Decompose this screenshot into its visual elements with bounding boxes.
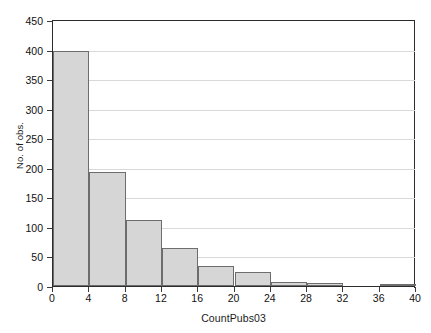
x-axis-tick-label: 8 [105,293,145,305]
y-axis-tick-label: 150 [9,193,43,204]
x-axis-tick-label: 40 [395,293,431,305]
y-axis-tick-label: 0 [9,282,43,293]
gridline [53,51,415,52]
plot-area [52,21,415,287]
histogram-bar [307,283,343,286]
gridline [53,139,415,140]
histogram-bar [162,248,198,286]
histogram-bar [271,282,307,286]
x-axis-tick-label: 0 [32,293,72,305]
x-axis-tick-label: 12 [141,293,181,305]
x-axis-tick-label: 4 [68,293,108,305]
x-axis-tick-label: 24 [250,293,290,305]
x-axis-tick-labels: 0481216202428323640 [52,293,415,309]
histogram-bar [198,266,234,286]
histogram-bar [53,51,89,286]
histogram-chart: No. of obs. 050100150200250300350400450 … [0,0,431,333]
y-axis-tick-label: 400 [9,45,43,56]
y-axis-tick-label: 50 [9,252,43,263]
y-axis-tick-label: 250 [9,134,43,145]
x-axis-tick-label: 28 [286,293,326,305]
y-axis-tick-label: 350 [9,75,43,86]
y-axis-tick-label: 200 [9,164,43,175]
x-axis-tick-label: 20 [214,293,254,305]
x-axis-tick-label: 32 [322,293,362,305]
histogram-bar [235,272,271,286]
gridline [53,169,415,170]
y-axis-tick-label: 300 [9,104,43,115]
histogram-bar [126,220,162,286]
histogram-bar [89,172,125,286]
gridline [53,110,415,111]
gridline [53,80,415,81]
x-axis-tick-label: 36 [359,293,399,305]
x-axis-tick-label: 16 [177,293,217,305]
y-axis-tick-labels: 050100150200250300350400450 [9,0,43,333]
y-axis-tick-label: 100 [9,223,43,234]
y-axis-tick-label: 450 [9,16,43,27]
x-axis-title: CountPubs03 [52,312,415,324]
histogram-bar [380,284,416,286]
